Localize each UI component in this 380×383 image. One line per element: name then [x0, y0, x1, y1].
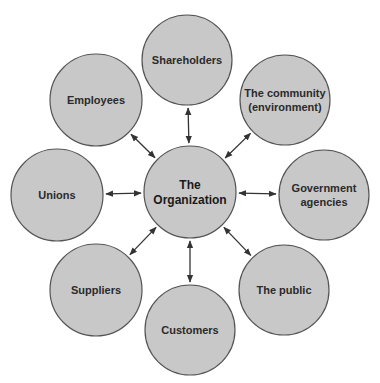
node-label: The — [179, 178, 201, 192]
node-label: Employees — [67, 94, 125, 106]
node-label: Customers — [161, 324, 218, 336]
node-label: Unions — [38, 189, 75, 201]
node-label: (environment) — [248, 101, 322, 113]
stakeholder-node-unions: Unions — [11, 149, 103, 241]
stakeholder-node-community: The community(environment) — [240, 55, 330, 145]
node-label: agencies — [300, 196, 347, 208]
center-node-org: TheOrganization — [144, 146, 236, 238]
double-arrow-shareholders — [188, 108, 189, 143]
stakeholder-node-customers: Customers — [145, 285, 235, 375]
stakeholder-node-government: Governmentagencies — [279, 150, 369, 240]
node-label: The community — [244, 87, 326, 99]
node-label: Suppliers — [71, 284, 121, 296]
node-circle — [240, 55, 330, 145]
double-arrow-employees — [131, 134, 155, 157]
stakeholder-node-public: The public — [239, 245, 329, 335]
stakeholder-diagram: ShareholdersThe community(environment)Go… — [0, 0, 380, 383]
node-label: Shareholders — [152, 54, 222, 66]
node-label: Organization — [153, 193, 226, 207]
nodes-layer: ShareholdersThe community(environment)Go… — [11, 15, 369, 375]
node-label: Government — [292, 182, 357, 194]
node-circle — [279, 150, 369, 240]
double-arrow-public — [224, 227, 251, 255]
double-arrow-community — [225, 133, 250, 158]
stakeholder-node-employees: Employees — [50, 54, 142, 146]
double-arrow-suppliers — [130, 227, 156, 254]
node-label: The public — [257, 284, 312, 296]
stakeholder-node-shareholders: Shareholders — [142, 15, 232, 105]
stakeholder-node-suppliers: Suppliers — [50, 244, 142, 336]
double-arrow-government — [239, 193, 276, 194]
double-arrow-unions — [106, 193, 141, 194]
